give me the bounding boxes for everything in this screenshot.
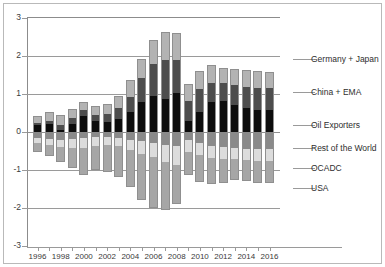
- legend-label-oil-exporters: Oil Exporters: [311, 120, 360, 130]
- legend-label-usa: USA: [311, 183, 328, 193]
- legend-label-ocadc: OCADC: [311, 163, 342, 173]
- chart-figure: 3 2 1 0 -1 -2 -3 19961998200020022004200…: [0, 0, 385, 267]
- chart-legend: Germany + Japan China + EMA Oil Exporter…: [0, 0, 385, 267]
- legend-label-china-ema: China + EMA: [311, 87, 361, 97]
- legend-label-germany-japan: Germany + Japan: [311, 54, 379, 64]
- legend-label-rest-of-world: Rest of the World: [311, 143, 377, 153]
